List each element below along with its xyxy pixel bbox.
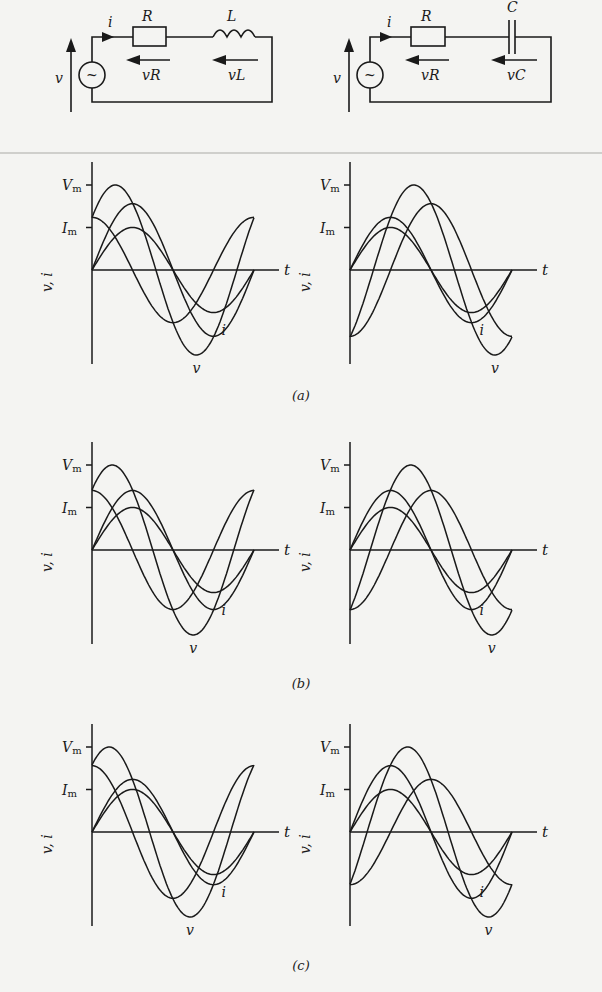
- y-axis-label: v, i: [297, 834, 313, 854]
- y-axis-label: v, i: [39, 834, 55, 854]
- y-axis-label: v, i: [297, 272, 313, 292]
- t-axis-label: t: [284, 823, 291, 841]
- voltage-arrow-icon: [344, 38, 354, 52]
- waveform-plot-a-left: VmImtv, iiv: [20, 160, 320, 400]
- curve-i-label: i: [480, 322, 484, 338]
- current-arrow-icon: [380, 32, 392, 42]
- svg-text:v: v: [55, 70, 63, 86]
- svg-text:R: R: [141, 8, 153, 24]
- vr-arrow-icon: [126, 55, 140, 65]
- rl-circuit-diagram: ~ i R L v vR vL: [0, 0, 301, 150]
- vm-label: Vm: [320, 739, 340, 756]
- svg-text:R: R: [420, 8, 432, 24]
- im-label: Im: [61, 220, 78, 237]
- svg-text:vC: vC: [507, 67, 526, 83]
- waveform-plot-b-right: VmImtv, iiv: [310, 440, 602, 680]
- svg-text:vL: vL: [228, 67, 245, 83]
- vc-arrow-icon: [491, 55, 505, 65]
- t-axis-label: t: [542, 261, 549, 279]
- curve-v-label: v: [485, 922, 493, 938]
- curve-i-label: i: [222, 322, 226, 338]
- current-arrow-icon: [102, 32, 114, 42]
- t-axis-label: t: [542, 823, 549, 841]
- curve-i-label: i: [480, 884, 484, 900]
- capacitor-icon: [509, 20, 515, 54]
- waveform-plot-b-left: VmImtv, iiv: [20, 440, 320, 680]
- caption-b: (b): [0, 676, 602, 691]
- vm-label: Vm: [62, 177, 82, 194]
- im-label: Im: [319, 500, 336, 517]
- rc-circuit-diagram: ~ i R C v vR vC: [301, 0, 602, 150]
- vm-label: Vm: [320, 457, 340, 474]
- svg-text:~: ~: [364, 67, 376, 83]
- im-label: Im: [61, 782, 78, 799]
- t-axis-label: t: [284, 261, 291, 279]
- y-axis-label: v, i: [39, 552, 55, 572]
- curve-v-label: v: [192, 360, 200, 376]
- vm-label: Vm: [62, 739, 82, 756]
- resistor-icon: [133, 27, 166, 46]
- svg-text:i: i: [108, 14, 112, 30]
- svg-text:v: v: [333, 70, 341, 86]
- svg-text:L: L: [226, 8, 236, 24]
- curve-v-label: v: [189, 640, 197, 656]
- im-label: Im: [319, 220, 336, 237]
- vm-label: Vm: [62, 457, 82, 474]
- curve-i-label: i: [480, 602, 484, 618]
- t-axis-label: t: [284, 541, 291, 559]
- voltage-arrow-icon: [66, 38, 76, 52]
- svg-text:i: i: [387, 14, 391, 30]
- waveform-plot-a-right: VmImtv, iiv: [310, 160, 602, 400]
- y-axis-label: v, i: [297, 552, 313, 572]
- vr-arrow-icon: [405, 55, 419, 65]
- im-label: Im: [61, 500, 78, 517]
- curve-v-label: v: [488, 640, 496, 656]
- resistor-icon: [411, 27, 445, 46]
- waveform-plot-c-right: VmImtv, iiv: [310, 722, 602, 962]
- curve-v-label: v: [186, 922, 194, 938]
- curve-v-label: v: [491, 360, 499, 376]
- vm-label: Vm: [320, 177, 340, 194]
- svg-text:vR: vR: [421, 67, 440, 83]
- caption-c: (c): [0, 958, 602, 973]
- svg-text:vR: vR: [142, 67, 161, 83]
- waveform-plot-c-left: VmImtv, iiv: [20, 722, 320, 962]
- curve-i-label: i: [222, 602, 226, 618]
- y-axis-label: v, i: [39, 272, 55, 292]
- svg-text:C: C: [507, 0, 518, 15]
- curve-i-label: i: [222, 884, 226, 900]
- svg-text:~: ~: [86, 67, 98, 83]
- caption-a: (a): [0, 388, 602, 403]
- vl-arrow-icon: [212, 55, 226, 65]
- inductor-icon: [213, 30, 255, 37]
- divider: [0, 152, 602, 154]
- t-axis-label: t: [542, 541, 549, 559]
- im-label: Im: [319, 782, 336, 799]
